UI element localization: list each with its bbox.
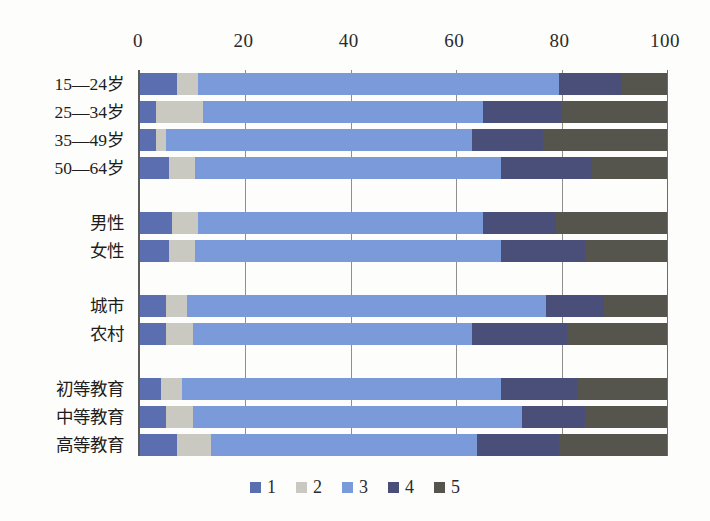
bar-row[interactable] [140,240,667,262]
bar-row[interactable] [140,378,667,400]
bar-row[interactable] [140,406,667,428]
bar-stack [140,434,667,456]
bar-row[interactable] [140,73,667,95]
bar-segment-3[interactable] [198,73,559,95]
bar-segment-5[interactable] [585,240,667,262]
legend-item[interactable]: 5 [434,478,460,496]
bar-segment-1[interactable] [140,406,166,428]
y-axis-label: 35—49岁 [55,129,125,151]
bar-segment-3[interactable] [187,295,545,317]
bar-segment-3[interactable] [193,323,472,345]
bar-segment-2[interactable] [177,73,198,95]
bar-segment-1[interactable] [140,295,166,317]
bar-segment-5[interactable] [567,323,667,345]
bar-segment-5[interactable] [556,212,667,234]
stacked-bar-chart: 020406080100 15—24岁25—34岁35—49岁50—64岁男性女… [0,0,710,521]
bar-row[interactable] [140,434,667,456]
bar-segment-2[interactable] [169,157,195,179]
bar-segment-4[interactable] [501,240,585,262]
bar-segment-5[interactable] [604,295,667,317]
x-tick-label: 0 [133,30,143,52]
bar-segment-4[interactable] [559,73,622,95]
bar-segment-2[interactable] [166,295,187,317]
bar-segment-1[interactable] [140,323,166,345]
bar-segment-4[interactable] [472,129,543,151]
bar-segment-5[interactable] [559,434,667,456]
bar-segment-5[interactable] [543,129,667,151]
bar-segment-4[interactable] [501,378,577,400]
bar-stack [140,73,667,95]
bar-segment-2[interactable] [169,240,195,262]
legend-item[interactable]: 3 [342,478,368,496]
legend-item[interactable]: 4 [388,478,414,496]
bar-segment-5[interactable] [591,157,667,179]
bar-row[interactable] [140,157,667,179]
bar-segment-2[interactable] [166,323,192,345]
bar-segment-2[interactable] [172,212,198,234]
legend-item[interactable]: 2 [296,478,322,496]
bar-segment-1[interactable] [140,73,177,95]
bar-segment-4[interactable] [483,101,562,123]
bar-segment-3[interactable] [195,240,501,262]
legend-swatch-icon [296,482,307,493]
chart-legend: 12345 [0,478,710,496]
x-tick-label: 20 [233,30,253,52]
y-axis-label: 中等教育 [56,406,124,428]
bar-segment-1[interactable] [140,378,161,400]
bar-segment-3[interactable] [182,378,501,400]
bar-segment-5[interactable] [585,406,667,428]
legend-label: 5 [451,478,460,496]
bar-segment-4[interactable] [483,212,557,234]
bar-row[interactable] [140,295,667,317]
bar-row[interactable] [140,323,667,345]
legend-label: 1 [267,478,276,496]
bar-row[interactable] [140,101,667,123]
bar-row[interactable] [140,129,667,151]
y-axis-category-labels: 15—24岁25—34岁35—49岁50—64岁男性女性城市农村初等教育中等教育… [0,70,132,456]
bar-segment-5[interactable] [577,378,667,400]
y-axis-label: 初等教育 [56,378,124,400]
bar-stack [140,240,667,262]
legend-item[interactable]: 1 [250,478,276,496]
bar-segment-2[interactable] [156,129,167,151]
y-axis-label: 女性 [90,240,124,262]
bar-segment-3[interactable] [195,157,501,179]
bar-stack [140,157,667,179]
bar-row[interactable] [140,212,667,234]
bar-segment-1[interactable] [140,129,156,151]
bar-segment-4[interactable] [477,434,559,456]
bar-segment-5[interactable] [562,101,667,123]
bar-stack [140,406,667,428]
bar-segment-1[interactable] [140,157,169,179]
legend-label: 4 [405,478,414,496]
bar-segment-4[interactable] [472,323,567,345]
legend-label: 2 [313,478,322,496]
bar-segment-1[interactable] [140,434,177,456]
legend-swatch-icon [250,482,261,493]
bar-segment-2[interactable] [177,434,211,456]
bar-segment-4[interactable] [501,157,591,179]
bar-segment-5[interactable] [622,73,667,95]
y-axis-label: 50—64岁 [55,157,125,179]
bar-segment-3[interactable] [203,101,482,123]
bar-stack [140,101,667,123]
bar-stack [140,295,667,317]
bar-stack [140,129,667,151]
x-tick-label: 60 [444,30,464,52]
bar-stack [140,212,667,234]
bar-segment-3[interactable] [211,434,477,456]
bar-segment-1[interactable] [140,212,172,234]
bar-segment-3[interactable] [198,212,483,234]
bar-segment-2[interactable] [156,101,203,123]
bar-segment-4[interactable] [522,406,585,428]
bar-segment-2[interactable] [161,378,182,400]
bar-segment-3[interactable] [193,406,522,428]
x-tick-label: 100 [650,30,680,52]
bar-segment-1[interactable] [140,101,156,123]
bar-segment-4[interactable] [546,295,604,317]
bar-segment-1[interactable] [140,240,169,262]
bar-segment-2[interactable] [166,406,192,428]
bar-stack [140,378,667,400]
bar-segment-3[interactable] [166,129,472,151]
bar-stack [140,323,667,345]
